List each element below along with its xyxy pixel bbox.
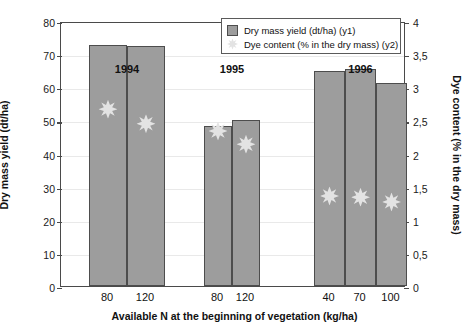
bar [345,69,376,286]
bar [314,71,345,286]
x-axis-title: Available N at the beginning of vegetati… [0,310,469,322]
legend-item-dry-mass-yield: Dry mass yield (dt/ha) (y1) [227,23,395,37]
y2-axis-tick-label: 3 [404,83,453,95]
x-axis-tick-label: 120 [236,291,254,303]
group-label-1994: 1994 [115,63,139,75]
y2-axis-tick-label: 1 [404,216,453,228]
data-point-marker [99,100,118,119]
x-axis-tick-label: 70 [353,291,365,303]
x-axis-tick-label: 40 [322,291,334,303]
group-label-1996: 1996 [348,63,372,75]
legend-label-dye-content: Dye content (% in the dry mass) (y2) [244,39,398,50]
y-axis-tick-label: 10 [21,249,61,261]
y-axis-tick-label: 30 [21,183,61,195]
data-point-marker [382,192,401,211]
y2-axis-tick-label: 0 [404,282,453,294]
data-point-marker [137,114,156,133]
data-point-marker [320,186,339,205]
y-axis-tick-label: 40 [21,150,61,162]
y-axis-tick-label: 0 [21,282,61,294]
y2-axis-tick-label: 3,5 [404,50,453,62]
y2-axis-tick-label: 2 [404,150,453,162]
legend-label-dry-mass-yield: Dry mass yield (dt/ha) (y1) [244,25,355,36]
data-point-marker [351,188,370,207]
bar [89,45,127,286]
x-axis-tick-label: 80 [211,291,223,303]
y-axis-tick-label: 20 [21,216,61,228]
y-axis-tick-label: 70 [21,50,61,62]
data-point-marker [209,121,228,140]
y2-axis-tick-label: 1,5 [404,183,453,195]
bar-swatch-icon [227,25,238,36]
chart-legend: Dry mass yield (dt/ha) (y1) Dye content … [221,18,401,54]
bar [204,126,232,286]
bar [376,83,407,286]
y-axis-tick-label: 50 [21,116,61,128]
y-axis-tick-label: 60 [21,83,61,95]
star-swatch-icon [227,39,238,50]
group-label-1995: 1995 [220,63,244,75]
x-axis-tick-label: 120 [136,291,154,303]
y2-axis-tick-label: 2,5 [404,116,453,128]
legend-item-dye-content: Dye content (% in the dry mass) (y2) [227,37,395,51]
plot-area: 0102030405060708000,511,522,533,54199419… [60,22,405,287]
data-point-marker [237,135,256,154]
y2-axis-tick-label: 0,5 [404,249,453,261]
y-axis-tick-label: 80 [21,17,61,29]
chart-container: Dry mass yield (dt/ha) Dye content (% in… [0,0,469,336]
y2-axis-tick-label: 4 [404,17,453,29]
x-axis-tick-label: 100 [381,291,399,303]
bar [127,46,165,286]
y-axis-title-left: Dry mass yield (dt/ha) [0,100,10,209]
x-axis-tick-label: 80 [101,291,113,303]
